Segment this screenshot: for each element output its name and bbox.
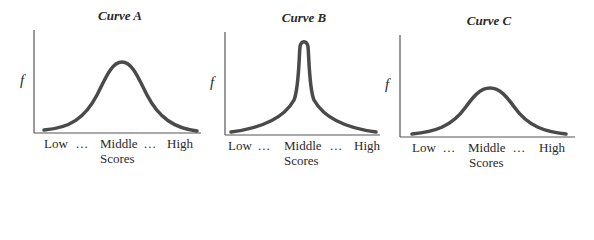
curve-c-line	[412, 88, 566, 134]
curve-c-dots-right: ...	[513, 140, 526, 156]
curve-c-dots-left: ...	[443, 140, 456, 156]
curve-c-high-label: High	[539, 140, 565, 156]
curve-c-scores-label: Scores	[469, 155, 504, 171]
curve-c-low-label: Low	[412, 140, 436, 156]
curve-c-middle-label: Middle	[468, 140, 506, 156]
